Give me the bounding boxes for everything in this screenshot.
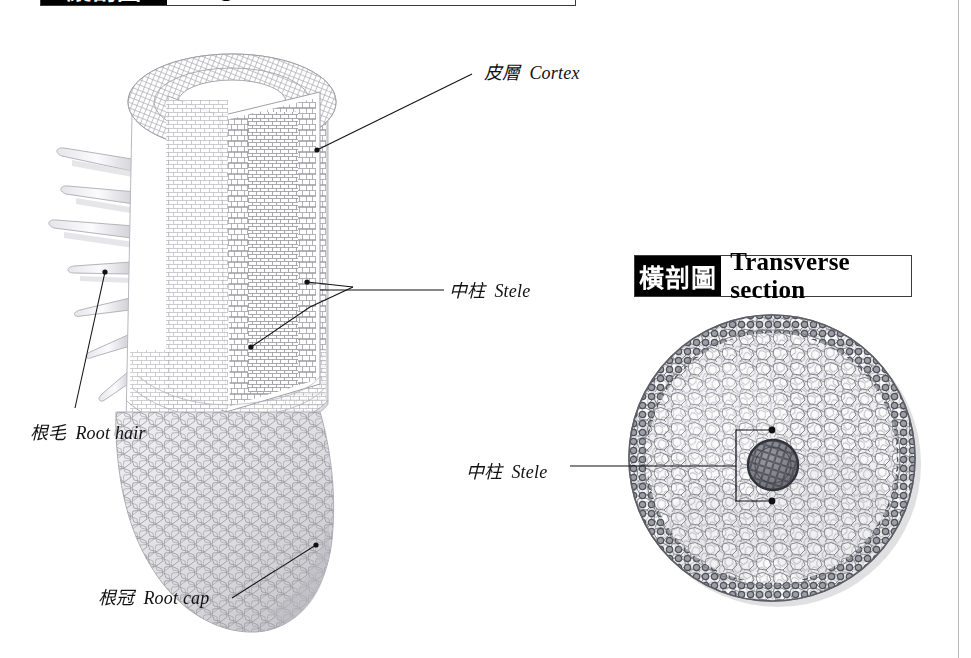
- cutaway-wedge: [166, 90, 322, 416]
- page-canvas: 縱剖圖 Longitudinal section: [0, 0, 971, 658]
- label-root-hair-en: Root hair: [75, 423, 145, 443]
- page-border-right: [958, 0, 959, 658]
- root-body: [126, 54, 340, 440]
- label-stele-longitudinal: 中柱Stele: [449, 276, 530, 302]
- root-hairs-group: [49, 148, 138, 437]
- label-stele-longitudinal-en: Stele: [494, 281, 530, 301]
- label-root-hair-cn: 根毛: [30, 423, 66, 443]
- banner-longitudinal-en: Longitudinal section: [167, 0, 396, 5]
- label-cortex-en: Cortex: [529, 63, 579, 83]
- bracket-dot-bottom: [769, 498, 776, 505]
- label-root-cap-cn: 根冠: [98, 588, 134, 608]
- label-stele-transverse-cn: 中柱: [466, 462, 502, 482]
- banner-longitudinal-section: 縱剖圖 Longitudinal section: [40, 0, 576, 6]
- label-cortex-cn: 皮層: [484, 63, 520, 83]
- figure-root-longitudinal: [20, 20, 440, 640]
- label-stele-transverse: 中柱Stele: [466, 457, 547, 483]
- figure-root-transverse: [620, 302, 950, 632]
- bracket-dot-top: [769, 427, 776, 434]
- label-root-cap: 根冠Root cap: [98, 583, 210, 609]
- banner-transverse-cn: 橫剖圖: [635, 256, 721, 296]
- label-stele-transverse-en: Stele: [511, 462, 547, 482]
- label-stele-longitudinal-cn: 中柱: [449, 281, 485, 301]
- banner-transverse-section: 橫剖圖 Transverse section: [634, 255, 912, 297]
- label-root-hair: 根毛Root hair: [30, 418, 146, 444]
- label-cortex: 皮層Cortex: [484, 58, 580, 84]
- root-cutaway-svg: [20, 20, 440, 640]
- banner-longitudinal-cn: 縱剖圖: [41, 0, 167, 5]
- label-root-cap-en: Root cap: [143, 588, 209, 608]
- root-cross-section-svg: [620, 302, 950, 632]
- banner-transverse-en: Transverse section: [721, 256, 911, 296]
